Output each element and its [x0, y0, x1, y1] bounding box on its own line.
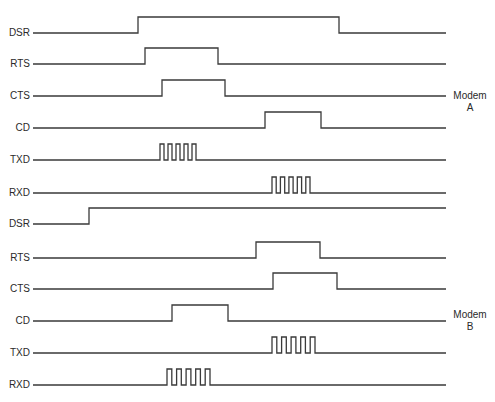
waveform-a-cts — [33, 80, 446, 96]
waveform-b-cd — [33, 305, 446, 321]
label-modem-a-cts: CTS — [0, 91, 30, 101]
label-modem-a-dsr: DSR — [0, 28, 30, 38]
waveform-a-rts — [33, 48, 446, 64]
modem-b-label: Modem B — [450, 309, 490, 333]
modem-a-label: Modem A — [450, 90, 490, 114]
waveform-b-cts — [33, 273, 446, 289]
label-modem-b-txd: TXD — [0, 348, 30, 358]
label-modem-a-cd: CD — [0, 123, 30, 133]
modem-a-label-line1: Modem — [450, 90, 490, 102]
modem-b-label-line1: Modem — [450, 309, 490, 321]
label-modem-b-dsr: DSR — [0, 219, 30, 229]
label-modem-b-rxd: RXD — [0, 380, 30, 390]
modem-b-label-line2: B — [450, 321, 490, 333]
label-modem-a-rts: RTS — [0, 59, 30, 69]
waveform-a-rxd — [33, 177, 446, 193]
waveform-b-dsr — [33, 208, 446, 224]
waveforms — [0, 0, 495, 402]
waveform-b-rxd — [33, 369, 446, 385]
label-modem-b-cd: CD — [0, 316, 30, 326]
waveform-a-txd — [33, 144, 446, 160]
waveform-b-rts — [33, 242, 446, 258]
waveform-b-txd — [33, 337, 446, 353]
label-modem-a-rxd: RXD — [0, 188, 30, 198]
timing-diagram: DSR RTS CTS CD TXD RXD DSR RTS CTS CD TX… — [0, 0, 495, 402]
label-modem-a-txd: TXD — [0, 155, 30, 165]
label-modem-b-cts: CTS — [0, 284, 30, 294]
modem-a-label-line2: A — [450, 102, 490, 114]
waveform-a-cd — [33, 112, 446, 128]
waveform-a-dsr — [33, 17, 446, 33]
label-modem-b-rts: RTS — [0, 253, 30, 263]
